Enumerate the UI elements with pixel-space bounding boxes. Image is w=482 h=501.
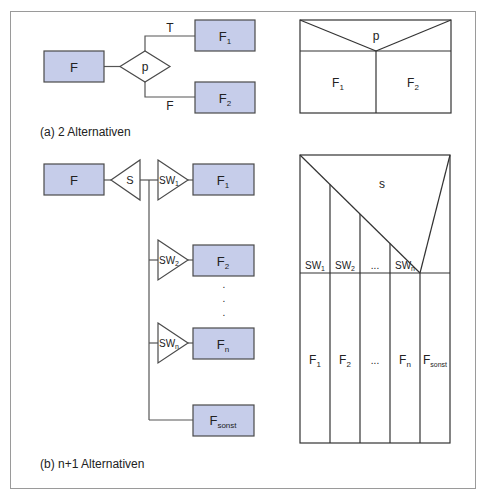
decision-label: p: [142, 60, 149, 74]
ellipsis-dot-1: .: [223, 279, 226, 290]
diagram-canvas: F p T F F1 F2 p F1 F2 (a) 2 Alternativen…: [0, 0, 482, 501]
selector-label: S: [126, 174, 133, 186]
true-branch-label: T: [166, 21, 174, 35]
ellipsis-dot-2: .: [223, 293, 226, 304]
struktogramm-b-col-ellipsis: ...: [371, 355, 379, 366]
struktogramm-b-selector: s: [379, 177, 385, 191]
caption-b: (b) n+1 Alternativen: [40, 457, 144, 471]
process-box-f-b-label: F: [70, 173, 78, 188]
process-box-f-label: F: [70, 60, 78, 75]
struktogramm-a-condition: p: [373, 29, 380, 43]
ellipsis-dot-3: .: [223, 307, 226, 318]
struktogramm-b-case-ellipsis: ...: [371, 260, 379, 271]
false-branch-label: F: [166, 99, 173, 113]
caption-a: (a) 2 Alternativen: [40, 125, 131, 139]
struktogramm-b: [300, 155, 450, 443]
